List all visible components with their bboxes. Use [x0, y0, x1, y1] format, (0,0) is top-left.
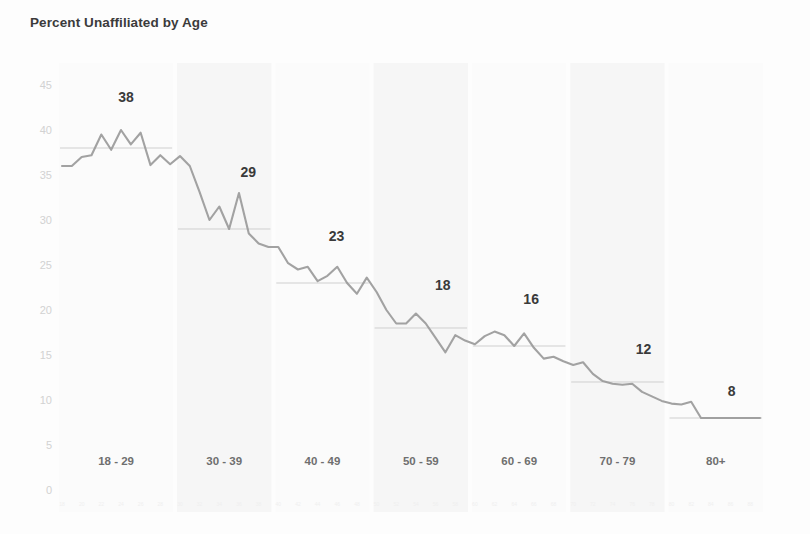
x-minor-tick: 68 — [551, 501, 557, 507]
x-minor-tick: 46 — [334, 501, 340, 507]
x-minor-tick: 38 — [256, 501, 262, 507]
x-minor-tick: 26 — [138, 501, 144, 507]
x-minor-tick: 20 — [79, 501, 85, 507]
x-group-label: 40 - 49 — [305, 455, 341, 467]
x-minor-tick: 28 — [158, 501, 164, 507]
x-group-label: 60 - 69 — [501, 455, 537, 467]
x-group-label: 80+ — [706, 455, 726, 467]
x-minor-tick: 88 — [747, 501, 753, 507]
x-minor-tick: 58 — [452, 501, 458, 507]
x-group-label: 70 - 79 — [600, 455, 636, 467]
x-minor-tick: 80 — [669, 501, 675, 507]
age-band — [177, 63, 271, 512]
age-band — [472, 63, 566, 512]
group-average-value-label: 18 — [435, 277, 451, 293]
age-band — [374, 63, 468, 512]
x-minor-tick: 62 — [492, 501, 498, 507]
age-band — [275, 63, 369, 512]
y-tick-label: 15 — [40, 349, 52, 361]
x-minor-tick: 76 — [629, 501, 635, 507]
x-minor-tick: 78 — [649, 501, 655, 507]
age-band — [669, 63, 763, 512]
y-tick-label: 40 — [40, 124, 52, 136]
x-minor-tick: 72 — [590, 501, 596, 507]
group-average-value-label: 16 — [523, 291, 539, 307]
x-minor-tick: 50 — [374, 501, 380, 507]
x-minor-tick: 64 — [511, 501, 517, 507]
age-band — [570, 63, 664, 512]
x-minor-tick: 48 — [354, 501, 360, 507]
group-average-value-label: 8 — [728, 383, 736, 399]
x-minor-tick: 42 — [295, 501, 301, 507]
x-minor-tick: 32 — [197, 501, 203, 507]
x-minor-tick: 24 — [118, 501, 124, 507]
group-average-value-label: 23 — [329, 228, 345, 244]
group-average-value-label: 38 — [118, 89, 134, 105]
background-bands — [59, 63, 763, 512]
y-tick-label: 30 — [40, 214, 52, 226]
y-tick-label: 0 — [46, 484, 52, 496]
y-tick-label: 10 — [40, 394, 52, 406]
x-minor-tick: 60 — [472, 501, 478, 507]
x-group-label: 50 - 59 — [403, 455, 439, 467]
x-minor-tick: 54 — [413, 501, 419, 507]
x-group-label: 30 - 39 — [206, 455, 242, 467]
y-tick-label: 5 — [46, 439, 52, 451]
x-minor-tick: 44 — [315, 501, 321, 507]
line-chart-plot: 051015202530354045 18 - 2930 - 3940 - 49… — [0, 0, 810, 534]
y-tick-label: 35 — [40, 169, 52, 181]
x-minor-tick: 86 — [728, 501, 734, 507]
age-band — [59, 63, 173, 512]
y-tick-label: 25 — [40, 259, 52, 271]
x-minor-tick: 22 — [99, 501, 105, 507]
x-minor-tick: 18 — [59, 501, 65, 507]
x-minor-tick: 36 — [236, 501, 242, 507]
y-axis-ticks: 051015202530354045 — [40, 79, 52, 496]
x-minor-tick: 40 — [276, 501, 282, 507]
group-average-value-label: 12 — [636, 341, 652, 357]
x-minor-tick: 84 — [708, 501, 714, 507]
x-minor-tick: 66 — [531, 501, 537, 507]
x-group-label: 18 - 29 — [98, 455, 134, 467]
x-minor-tick: 82 — [688, 501, 694, 507]
y-tick-label: 45 — [40, 79, 52, 91]
y-tick-label: 20 — [40, 304, 52, 316]
x-minor-tick: 74 — [610, 501, 616, 507]
x-minor-tick: 52 — [393, 501, 399, 507]
x-minor-tick: 30 — [177, 501, 183, 507]
x-minor-tick: 34 — [217, 501, 223, 507]
group-average-value-label: 29 — [240, 164, 256, 180]
x-minor-tick: 56 — [433, 501, 439, 507]
x-minor-tick: 70 — [570, 501, 576, 507]
chart-figure: Percent Unaffiliated by Age 051015202530… — [0, 0, 810, 534]
